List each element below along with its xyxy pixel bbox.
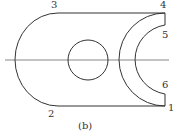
point-label-2: 2 [48, 108, 54, 119]
point-label-1: 1 [168, 102, 174, 113]
point-label-6: 6 [162, 79, 168, 90]
diagram-figure: 3 4 5 6 1 2 (b) [0, 0, 176, 131]
plate-outline [15, 13, 165, 106]
figure-caption: (b) [78, 120, 92, 131]
point-label-5: 5 [162, 29, 168, 40]
point-label-4: 4 [160, 0, 166, 10]
point-label-3: 3 [51, 0, 57, 10]
